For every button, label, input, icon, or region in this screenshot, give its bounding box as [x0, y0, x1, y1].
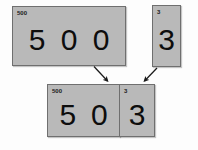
card-ones-result[interactable]: 3 3 — [119, 84, 155, 137]
card-hundreds-source-digits: 5 0 0 — [13, 15, 125, 65]
digit: 3 — [158, 25, 175, 55]
digit: 0 — [61, 25, 78, 55]
card-ones-source-digits: 3 — [153, 14, 180, 66]
digit: 0 — [93, 25, 110, 55]
card-hundreds-result[interactable]: 500 5 0 — [47, 84, 120, 137]
digit: 3 — [129, 100, 146, 130]
place-value-diagram: 500 5 0 0 3 3 500 5 0 3 3 — [0, 0, 198, 150]
card-hundreds-source[interactable]: 500 5 0 0 — [12, 6, 126, 66]
digit: 5 — [29, 25, 46, 55]
card-ones-source[interactable]: 3 3 — [152, 5, 181, 67]
digit: 0 — [91, 100, 108, 130]
arrow-hundreds-to-result — [94, 67, 108, 82]
arrow-ones-to-result — [145, 68, 158, 81]
card-ones-result-digits: 3 — [120, 93, 154, 136]
card-hundreds-result-digits: 5 0 — [48, 93, 119, 136]
digit: 5 — [59, 100, 76, 130]
